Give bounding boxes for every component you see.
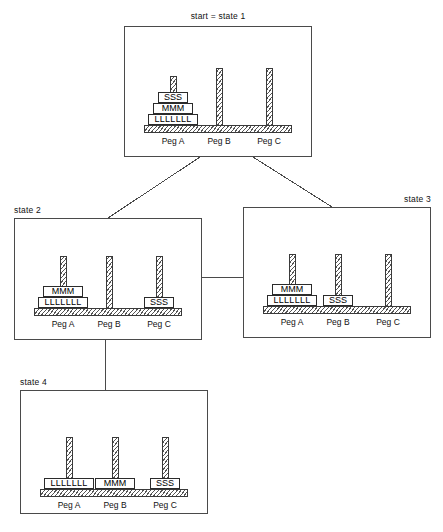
state-2-peg-b-post	[106, 256, 113, 312]
state-4-peg-c-label: Peg C	[140, 500, 190, 510]
state-3-peg-b-label: Peg B	[313, 317, 363, 327]
state-4-peg-a-post	[66, 437, 73, 482]
state-1-base	[144, 125, 292, 133]
state-4-peg-b-label: Peg B	[90, 500, 140, 510]
state-2-label: state 2	[14, 205, 41, 216]
state-4-disc-small: SSS	[150, 478, 180, 489]
state-4-base	[40, 489, 188, 497]
state-3-disc-large: LLLLLLL	[267, 295, 317, 306]
state-2-peg-c-post	[156, 256, 163, 301]
edge-state1-state2	[108, 157, 200, 218]
state-3-disc-small: SSS	[323, 295, 353, 306]
state-1-scene: LLLLLLL MMM SSS Peg A Peg B Peg C	[124, 26, 312, 157]
state-4-scene: LLLLLLL MMM SSS Peg A Peg B Peg C	[20, 390, 208, 514]
state-3-peg-c-label: Peg C	[363, 317, 413, 327]
state-node-4: state 4 LLLLLLL MMM SSS Peg A Peg B Peg …	[20, 390, 208, 514]
state-3-peg-b-post	[335, 254, 342, 298]
state-3-peg-a-label: Peg A	[267, 317, 317, 327]
state-4-peg-a-label: Peg A	[44, 500, 94, 510]
state-2-scene: LLLLLLL MMM SSS Peg A Peg B Peg C	[14, 218, 202, 340]
edge-state1-state3	[253, 157, 332, 207]
state-4-disc-medium: MMM	[95, 478, 135, 489]
state-2-peg-a-label: Peg A	[38, 319, 88, 329]
state-node-2: state 2 LLLLLLL MMM SSS Peg A Peg B Peg …	[14, 218, 202, 340]
hanoi-state-diagram: start = state 1 LLLLLLL MMM SSS Peg A Pe…	[0, 0, 443, 532]
state-2-peg-b-label: Peg B	[84, 319, 134, 329]
state-2-disc-large: LLLLLLL	[38, 297, 88, 308]
state-1-disc-small: SSS	[158, 92, 188, 103]
state-1-disc-large: LLLLLLL	[148, 114, 198, 125]
state-4-peg-c-post	[162, 437, 169, 482]
state-node-1: start = state 1 LLLLLLL MMM SSS Peg A Pe…	[124, 26, 312, 157]
state-2-disc-small: SSS	[144, 297, 174, 308]
state-2-peg-c-label: Peg C	[134, 319, 184, 329]
state-3-label: state 3	[404, 194, 431, 205]
state-2-base	[34, 308, 182, 316]
state-1-peg-b-label: Peg B	[194, 136, 244, 146]
state-1-label: start = state 1	[124, 11, 312, 22]
state-2-disc-medium: MMM	[43, 286, 83, 297]
state-4-label: state 4	[20, 377, 47, 388]
state-4-disc-large: LLLLLLL	[44, 478, 94, 489]
state-1-peg-a-label: Peg A	[148, 136, 198, 146]
state-3-base	[263, 306, 411, 314]
state-3-disc-medium: MMM	[272, 284, 312, 295]
state-1-peg-c-label: Peg C	[244, 136, 294, 146]
state-4-peg-b-post	[112, 437, 119, 482]
state-node-3: state 3 LLLLLLL MMM SSS Peg A Peg B Peg …	[243, 207, 431, 338]
state-1-peg-c-post	[266, 68, 273, 129]
state-3-peg-c-post	[385, 254, 392, 310]
state-1-peg-b-post	[216, 68, 223, 129]
state-1-disc-medium: MMM	[153, 103, 193, 114]
state-3-scene: LLLLLLL MMM SSS Peg A Peg B Peg C	[243, 207, 431, 338]
